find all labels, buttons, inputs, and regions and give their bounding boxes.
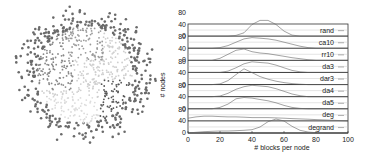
graph-node bbox=[102, 69, 104, 71]
graph-node bbox=[119, 32, 122, 35]
graph-node bbox=[95, 114, 97, 116]
graph-node bbox=[110, 110, 112, 112]
graph-node bbox=[131, 111, 134, 114]
graph-node bbox=[72, 105, 74, 107]
graph-node bbox=[47, 109, 50, 112]
graph-node bbox=[54, 84, 56, 86]
graph-node bbox=[111, 57, 113, 59]
graph-node bbox=[74, 102, 76, 104]
graph-node bbox=[76, 40, 78, 42]
graph-node bbox=[45, 28, 48, 31]
graph-node bbox=[49, 50, 51, 52]
graph-node bbox=[62, 94, 64, 96]
graph-node bbox=[40, 33, 43, 36]
graph-node bbox=[110, 56, 112, 58]
graph-node bbox=[49, 52, 51, 54]
graph-node bbox=[77, 64, 79, 66]
graph-node bbox=[83, 113, 85, 115]
graph-node bbox=[40, 42, 43, 45]
graph-node bbox=[109, 74, 111, 76]
graph-node bbox=[125, 74, 127, 76]
graph-node bbox=[136, 72, 139, 75]
graph-node bbox=[55, 64, 57, 66]
graph-node bbox=[42, 109, 45, 112]
legend-label-ca10: ca10 bbox=[319, 39, 334, 46]
graph-visualization bbox=[0, 0, 175, 156]
graph-node bbox=[101, 52, 103, 54]
graph-node bbox=[147, 57, 150, 60]
graph-node bbox=[38, 64, 40, 66]
graph-node bbox=[90, 28, 92, 30]
graph-node bbox=[92, 87, 94, 89]
graph-node bbox=[102, 48, 104, 50]
graph-node bbox=[146, 64, 149, 67]
graph-node bbox=[40, 74, 42, 76]
graph-node bbox=[49, 68, 51, 70]
graph-node bbox=[105, 38, 107, 40]
graph-node bbox=[61, 110, 63, 112]
graph-node bbox=[65, 9, 68, 12]
graph-node bbox=[111, 109, 113, 111]
graph-node bbox=[80, 21, 83, 24]
graph-node bbox=[33, 76, 36, 79]
graph-node bbox=[86, 122, 88, 124]
graph-node bbox=[133, 38, 136, 41]
graph-node bbox=[70, 72, 72, 74]
graph-node bbox=[68, 40, 70, 42]
graph-node bbox=[48, 75, 50, 77]
graph-node bbox=[95, 52, 97, 54]
graph-node bbox=[118, 28, 121, 31]
graph-node bbox=[50, 58, 52, 60]
graph-node bbox=[117, 123, 120, 126]
graph-node bbox=[96, 109, 98, 111]
graph-node bbox=[57, 30, 60, 33]
graph-node bbox=[60, 133, 63, 136]
graph-node bbox=[91, 65, 93, 67]
graph-node bbox=[45, 60, 47, 62]
graph-node bbox=[101, 105, 103, 107]
graph-node bbox=[130, 38, 133, 41]
graph-node bbox=[35, 64, 38, 67]
graph-node bbox=[147, 92, 150, 95]
graph-node bbox=[103, 33, 105, 35]
graph-node bbox=[88, 94, 90, 96]
graph-node bbox=[39, 68, 41, 70]
graph-node bbox=[117, 92, 119, 94]
graph-node bbox=[101, 83, 103, 85]
graph-node bbox=[72, 91, 74, 93]
graph-node bbox=[80, 105, 82, 107]
graph-node bbox=[98, 89, 100, 91]
graph-node bbox=[110, 71, 112, 73]
graph-node bbox=[116, 106, 118, 108]
graph-node bbox=[121, 62, 123, 64]
graph-node bbox=[89, 141, 92, 144]
graph-node bbox=[114, 116, 117, 119]
graph-node bbox=[38, 28, 41, 31]
graph-node bbox=[114, 66, 116, 68]
graph-node bbox=[92, 79, 94, 81]
graph-node bbox=[119, 126, 122, 129]
graph-node bbox=[34, 42, 37, 45]
graph-node bbox=[109, 40, 111, 42]
graph-node bbox=[40, 117, 43, 120]
graph-node bbox=[60, 91, 62, 93]
graph-node bbox=[52, 25, 55, 28]
graph-node bbox=[35, 103, 38, 106]
graph-node bbox=[123, 66, 125, 68]
legend-label-da4: da4 bbox=[322, 87, 334, 94]
graph-node bbox=[50, 99, 52, 101]
graph-node bbox=[137, 52, 140, 55]
graph-node bbox=[39, 79, 41, 81]
graph-node bbox=[98, 32, 100, 34]
graph-node bbox=[105, 58, 107, 60]
graph-node bbox=[104, 117, 106, 119]
graph-node bbox=[62, 84, 64, 86]
graph-node bbox=[60, 107, 62, 109]
graph-node bbox=[110, 26, 113, 29]
graph-node bbox=[115, 37, 117, 39]
graph-node bbox=[142, 105, 145, 108]
series-panel-deg: deg bbox=[188, 111, 348, 120]
graph-node bbox=[115, 75, 117, 77]
graph-node bbox=[145, 82, 148, 85]
graph-node bbox=[73, 64, 75, 66]
